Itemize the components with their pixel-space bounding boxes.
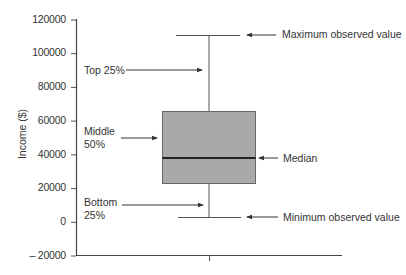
middle-label-line1: Middle (84, 125, 115, 138)
top-annotation: Top 25% (84, 64, 125, 77)
min-annotation: Minimum observed value (283, 211, 400, 224)
ytick-0: 0 (8, 215, 66, 227)
bottom-label-line2: 25% (84, 209, 117, 222)
middle-annotation: Middle 50% (84, 125, 115, 151)
bottom-label-line1: Bottom (84, 196, 117, 209)
ytick-20000: 20000 (8, 181, 66, 193)
iqr-box (163, 112, 256, 184)
ytick-neg20000: – 20000 (8, 249, 66, 261)
max-annotation: Maximum observed value (282, 28, 402, 41)
bottom-annotation: Bottom 25% (84, 196, 117, 222)
middle-label-line2: 50% (84, 138, 115, 151)
y-axis-label: Income ($) (16, 104, 28, 164)
ytick-120000: 120000 (8, 13, 66, 25)
median-annotation: Median (283, 152, 317, 165)
ytick-100000: 100000 (8, 46, 66, 58)
ytick-80000: 80000 (8, 80, 66, 92)
box-plot-graphic (0, 0, 406, 275)
